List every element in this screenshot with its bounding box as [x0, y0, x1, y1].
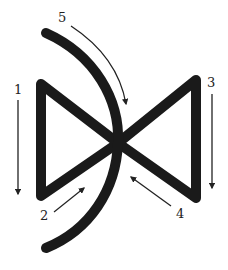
label-5: 5 — [58, 11, 66, 24]
stroke-order-diagram — [0, 0, 228, 270]
arrow-5-icon — [71, 26, 126, 104]
label-2: 2 — [40, 209, 48, 222]
label-4: 4 — [176, 207, 184, 220]
arrow-2-icon — [54, 188, 84, 212]
label-3: 3 — [207, 76, 215, 89]
label-1: 1 — [14, 83, 22, 96]
